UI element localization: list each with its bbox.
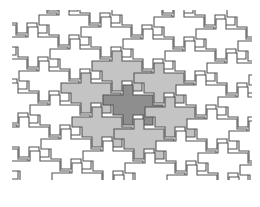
tile [178,199,238,207]
tile [0,195,8,207]
tile [216,0,260,3]
tile [28,0,88,11]
tile [63,197,123,207]
tile [0,71,6,111]
tessellation-diagram [0,0,260,207]
tile [209,177,260,207]
tile [251,189,260,207]
tile [21,185,81,207]
tile [258,0,260,15]
tile [136,187,196,207]
tessellation-svg [0,0,260,207]
tile [101,0,161,1]
